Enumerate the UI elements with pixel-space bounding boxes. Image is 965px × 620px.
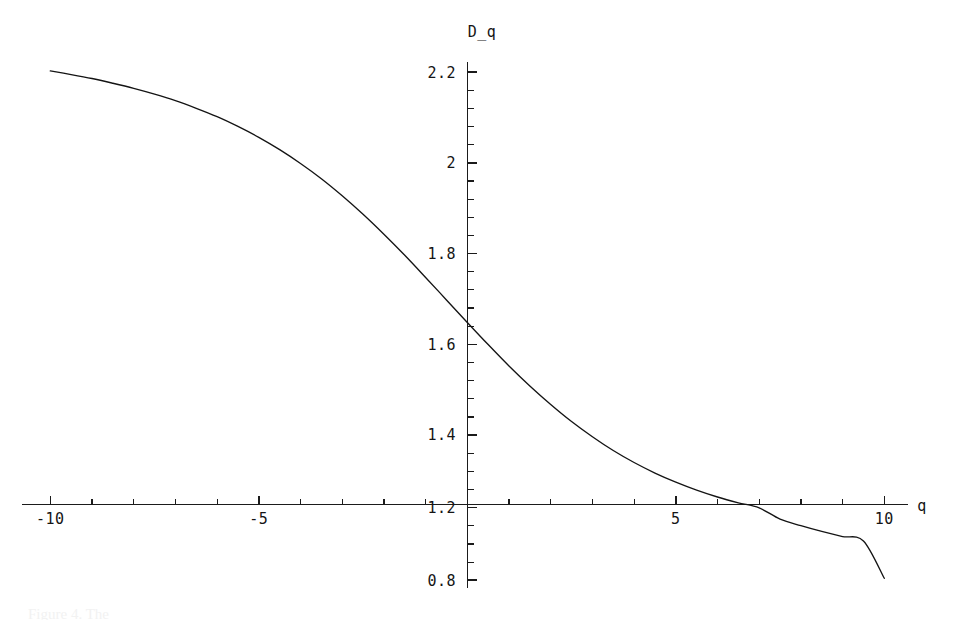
y-axis-title: D_q: [468, 23, 497, 41]
y-tick-label-1-6: 1.6: [427, 336, 456, 354]
plot-figure: -10 -5 5 10 q: [0, 0, 965, 620]
y-tick-label-2-2: 2.2: [427, 64, 456, 82]
x-tick-label-10: 10: [875, 510, 894, 528]
y-tick-label-2: 2: [446, 154, 456, 172]
y-tick-label-1-8: 1.8: [427, 245, 456, 263]
x-axis-title: q: [917, 497, 927, 515]
x-tick-label-neg10: -10: [36, 510, 65, 528]
y-tick-label-1-2-display: 1.2: [427, 499, 456, 517]
x-tick-label-neg5: -5: [249, 510, 268, 528]
y-tick-label-0-8: 0.8: [427, 572, 456, 590]
y-tick-label-1-4: 1.4: [427, 426, 456, 444]
x-tick-label-5: 5: [671, 510, 681, 528]
dq-spectrum-chart: -10 -5 5 10 q: [0, 0, 965, 620]
